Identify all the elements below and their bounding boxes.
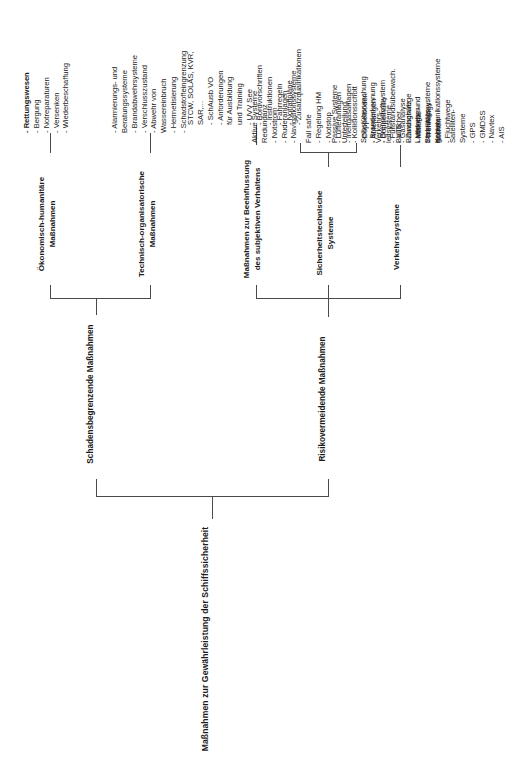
connector-root-stub (212, 497, 213, 519)
column-list-item: - Brandabwehrsysteme (130, 5, 140, 133)
column-list-item: - GMDSS (478, 3, 488, 143)
category-label-verkehrssysteme: Verkehrssysteme (392, 189, 403, 285)
column-list-item: - Inertgasanlagen (344, 3, 354, 143)
column-list-item: - Abwehr von Wassereinbruch (149, 5, 169, 133)
connector-oekonomisch-content (50, 133, 51, 153)
connector-root-to-risiko (328, 479, 329, 497)
connector-sicherheitstechnik-vertical (300, 152, 356, 153)
column-list-item: - Notreparaturen (42, 5, 52, 133)
column-list-item: - Lüfteranlagen (334, 3, 344, 143)
column-list-item: - GPS (468, 3, 478, 143)
column-list-item: - Versenken (52, 5, 62, 133)
branch-label-risikovermeidende: Risikovermeidende Maßnahmen (318, 319, 329, 479)
connector-root-to-schaden (96, 479, 97, 497)
column-list-item: - Bordvorschriften (255, 0, 265, 125)
column-list-item: - Zusatzqualifikationen (294, 0, 304, 125)
category-label-oekonomisch-humanitaere: Ökonomisch-humanitäre Maßnahmen (37, 163, 58, 285)
content-column-verhalten: STCW, SOLAS, KVR, SAR,...- SchAusb VO- A… (186, 0, 304, 125)
connector-schaden-to-techorg (150, 285, 151, 299)
column-list-item: - AIS (497, 3, 507, 143)
category-label-technisch-organisatorische: Technisch-organisatorische Maßnahmen (137, 163, 158, 285)
branch-label-schadensbegrenzende: Schadensbegrenzende Maßnahmen (86, 309, 97, 479)
column-list-item: - Fahrregeln (275, 0, 285, 125)
column-list-item: - Notstop (324, 3, 334, 143)
connector-risiko-stub (328, 299, 329, 317)
category-label-beeinflussung-verhalten: Maßnahmen zur Beeinflussung des subjekti… (242, 153, 263, 285)
column-list-item: - Schadstoffeingrenzung (179, 5, 189, 133)
column-list-item: - UVV See (245, 0, 255, 125)
column-list-item: - Regelung HM (314, 3, 324, 143)
column-list-item: - Anforderungen für Ausbildung und Train… (216, 0, 246, 125)
column-list-item: - Notfallpläne (285, 0, 295, 125)
column-list-item: - SchAusb VO (206, 0, 216, 125)
connector-schaden-stub (96, 299, 97, 315)
connector-schaden-to-oekonomisch (50, 285, 51, 299)
connector-sicherheitstechnik-passiv (356, 143, 357, 153)
column-list-item: - Wiederbeschaffung (61, 5, 71, 133)
connector-risiko-to-verhalten (256, 285, 257, 299)
column-list-item: - Verschlusszustand (140, 5, 150, 133)
column-group-heading: Fail safe (304, 3, 314, 143)
connector-risiko-to-sicherheitstechnik (328, 285, 329, 299)
connector-techorg-content (150, 133, 151, 153)
column-group-heading: STCW, SOLAS, KVR, SAR,... (186, 0, 206, 125)
column-list-item: - Füllstandsüberwach. (388, 3, 398, 143)
column-group-heading: Selbstüberwachung (359, 3, 369, 143)
content-column-techorg: - Alarmierungs- und Beratungssysteme- Br… (110, 5, 189, 133)
diagram-title: Maßnahmen zur Gewährleistung der Schiffs… (200, 519, 211, 759)
column-list-item: - Bergung (32, 5, 42, 133)
column-list-item: - Fluchtwege (443, 3, 453, 143)
category-label-sicherheitstechnische-systeme: Sicherheitstechnische Systeme (315, 181, 336, 285)
column-list-item: - Branderkennung (368, 3, 378, 143)
column-group-heading: Ladungs- und Stabilitätssysteme Kommunik… (413, 3, 443, 143)
connector-verkehrssysteme-content (400, 145, 401, 167)
connector-schaden-vertical (50, 298, 150, 299)
connector-sicherheitstechnik-aktiv (300, 143, 301, 153)
column-list-item: - Brennstoffsystem (378, 3, 388, 143)
column-list-item: - Instruktionen (265, 0, 275, 125)
connector-risiko-to-verkehrssysteme (400, 285, 401, 299)
connector-sicherheitstechnik-stub (328, 153, 329, 167)
column-list-item: - Rettungswesen (22, 5, 32, 133)
column-list-item: - Navtex (487, 3, 497, 143)
column-list-item: - Hermetisierung (169, 5, 179, 133)
column-list-item: - Alarmierungs- und Beratungssysteme (110, 5, 130, 133)
content-column-oekonomisch: - Rettungswesen- Bergung- Notreparaturen… (22, 5, 71, 133)
connector-root-vertical (96, 496, 328, 497)
column-list-item: - Gasanalyse (398, 3, 408, 143)
